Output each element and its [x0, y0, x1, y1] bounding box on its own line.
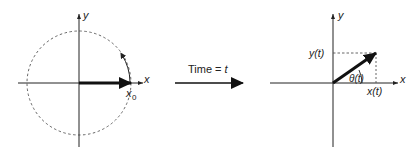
left-panel: y x x 0 [18, 9, 150, 147]
right-x-label: x [399, 73, 406, 85]
rotating-vector-diagram: y x x 0 Time = t y x y(t) x(t) θ(t) [0, 0, 420, 155]
x-of-t-label: x(t) [366, 85, 382, 97]
time-label: Time = t [188, 63, 229, 75]
y-of-t-label: y(t) [308, 47, 324, 59]
theta-of-t-label: θ(t) [349, 73, 364, 84]
x0-label: x [125, 87, 132, 99]
left-x-label: x [143, 73, 150, 85]
x0-subscript: 0 [132, 93, 137, 102]
right-panel: y x y(t) x(t) θ(t) [270, 9, 406, 147]
time-transition: Time = t [175, 63, 243, 83]
right-y-label: y [337, 9, 345, 21]
left-y-label: y [82, 9, 90, 21]
